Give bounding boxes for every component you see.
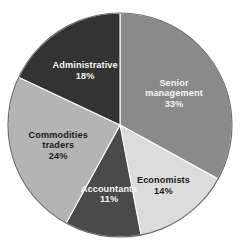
- pie-slice-label: management: [145, 88, 203, 98]
- pie-slice-label: Administrative: [53, 60, 118, 70]
- pie-chart-svg: Seniormanagement33%Economists14%Accounta…: [0, 0, 240, 245]
- pie-slice-value: 18%: [76, 71, 95, 81]
- pie-slices-group: [8, 13, 232, 237]
- pie-slice-value: 33%: [165, 99, 184, 109]
- pie-chart: Seniormanagement33%Economists14%Accounta…: [0, 0, 240, 245]
- pie-slice-label: traders: [42, 140, 74, 150]
- pie-slice-value: 24%: [49, 151, 68, 161]
- pie-slice-label: Economists: [137, 175, 190, 185]
- pie-slice-label: Senior: [159, 78, 189, 88]
- pie-slice-value: 14%: [154, 186, 173, 196]
- pie-slice-label: Commodities: [29, 130, 88, 140]
- pie-slice-label: Accountants: [81, 184, 138, 194]
- pie-slice-value: 11%: [100, 194, 118, 204]
